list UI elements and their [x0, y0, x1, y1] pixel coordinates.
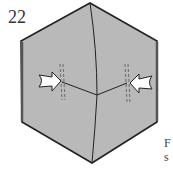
cropped-text-line-2: s [164, 151, 169, 163]
cropped-text-line-1: F [164, 137, 171, 149]
origami-diagram [0, 0, 173, 169]
